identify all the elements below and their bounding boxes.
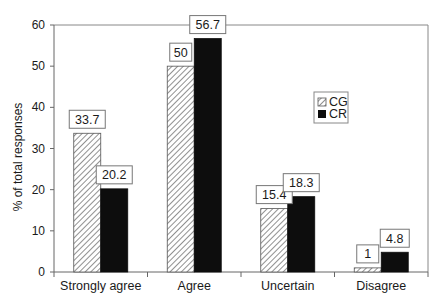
y-axis-title: % of total responses xyxy=(11,103,25,212)
bar-cr xyxy=(194,39,221,272)
x-category-label: Strongly agree xyxy=(60,279,141,293)
bar-cr xyxy=(101,189,128,272)
value-label: 33.7 xyxy=(75,113,99,127)
y-tick-label: 0 xyxy=(38,265,45,279)
bar-cg xyxy=(354,268,381,272)
y-tick-label: 20 xyxy=(32,183,46,197)
legend: CG CR xyxy=(314,92,348,123)
value-label: 50 xyxy=(174,46,188,60)
y-tick-label: 10 xyxy=(32,224,46,238)
x-category-label: Uncertain xyxy=(261,279,315,293)
black-square-icon xyxy=(318,110,326,118)
y-tick-label: 40 xyxy=(32,100,46,114)
x-category-label: Agree xyxy=(178,279,211,293)
y-ticks: 0102030405060 xyxy=(32,18,54,279)
legend-label-cr: CR xyxy=(329,107,347,121)
x-category-label: Disagree xyxy=(356,279,406,293)
y-tick-label: 60 xyxy=(32,18,46,32)
bar-cr xyxy=(288,197,315,272)
bars xyxy=(74,39,409,272)
bar-cg xyxy=(167,66,194,272)
bar-cg xyxy=(74,133,101,272)
y-tick-label: 50 xyxy=(32,59,46,73)
bar-chart: % of total responses 0102030405060 Stron… xyxy=(0,0,443,307)
value-label: 56.7 xyxy=(196,18,220,32)
bar-cr xyxy=(381,252,408,272)
value-label: 20.2 xyxy=(102,168,126,182)
value-label: 18.3 xyxy=(289,176,313,190)
value-label: 1 xyxy=(364,247,371,261)
value-label: 4.8 xyxy=(386,232,403,246)
bar-cg xyxy=(261,209,288,272)
y-tick-label: 30 xyxy=(32,142,46,156)
x-ticks: Strongly agreeAgreeUncertainDisagree xyxy=(54,272,428,293)
hatched-square-icon xyxy=(318,98,326,106)
